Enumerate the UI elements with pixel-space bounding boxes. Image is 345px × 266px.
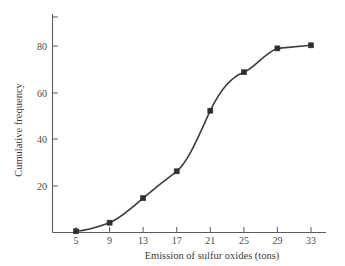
data-point-29 [275,46,280,51]
y-tick-label-40: 40 [37,134,47,145]
chart-figure: 80 60 40 20 5 9 13 17 21 25 29 33 [0,0,345,266]
y-tick-label-60: 60 [37,88,47,99]
data-point-5 [74,229,79,234]
x-tick-label-25: 25 [239,235,249,246]
x-tick-label-13: 13 [138,235,148,246]
y-tick-label-80: 80 [37,41,47,52]
x-axis-ticks [76,227,311,233]
y-tick-label-20: 20 [37,181,47,192]
x-tick-label-9: 9 [107,235,112,246]
x-tick-label-29: 29 [272,235,282,246]
data-point-25 [241,70,246,75]
data-point-21 [208,108,213,113]
x-tick-label-33: 33 [306,235,316,246]
data-point-33 [309,43,314,48]
y-axis-title: Cumulative frequency [13,82,24,176]
y-axis-ticks [53,17,59,186]
y-axis-tick-labels: 80 60 40 20 [37,41,47,192]
x-tick-label-5: 5 [74,235,79,246]
cumulative-frequency-line [76,45,311,231]
data-point-13 [141,196,146,201]
x-tick-label-17: 17 [172,235,182,246]
data-point-9 [107,220,112,225]
data-point-17 [174,169,179,174]
cumulative-frequency-ogive-chart: 80 60 40 20 5 9 13 17 21 25 29 33 [0,0,345,266]
data-point-markers [74,43,314,234]
x-tick-label-21: 21 [205,235,215,246]
x-axis-title: Emission of sulfur oxides (tons) [145,250,280,262]
x-axis-tick-labels: 5 9 13 17 21 25 29 33 [74,235,317,246]
